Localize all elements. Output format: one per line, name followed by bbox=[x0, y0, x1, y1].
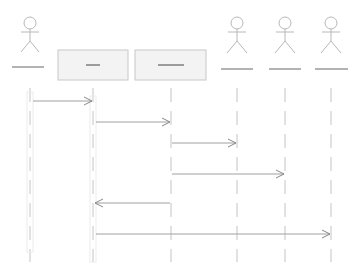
lifelines bbox=[30, 88, 331, 262]
actor-head-icon bbox=[24, 17, 36, 29]
object-p3[interactable] bbox=[135, 50, 206, 80]
actor-head-icon bbox=[279, 17, 291, 29]
actor-p4[interactable] bbox=[221, 17, 253, 69]
actor-p6[interactable] bbox=[315, 17, 348, 69]
object-p2[interactable] bbox=[58, 50, 128, 80]
actor-head-icon bbox=[325, 17, 337, 29]
actor-p5[interactable] bbox=[269, 17, 301, 69]
sequence-diagram: — —— bbox=[0, 0, 357, 278]
actor-head-icon bbox=[231, 17, 243, 29]
actor-p1[interactable] bbox=[12, 17, 44, 67]
